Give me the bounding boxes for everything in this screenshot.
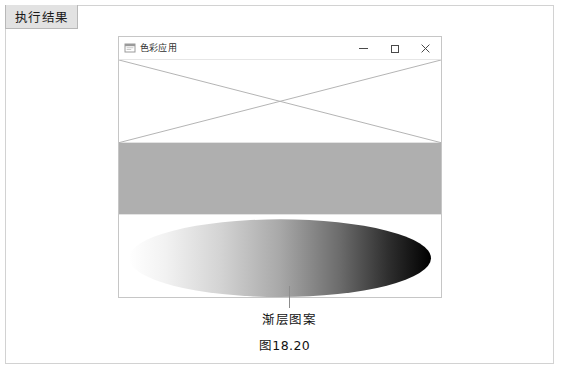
- callout-label: 渐层图案: [262, 309, 316, 328]
- minimize-button[interactable]: [348, 37, 379, 60]
- figure-number: 图18.20: [259, 335, 310, 354]
- figure-number-wrap: 图18.20: [0, 335, 561, 354]
- close-icon: [421, 44, 430, 53]
- gradient-ellipse: [129, 219, 431, 297]
- drawing-canvas: [119, 60, 441, 297]
- window-title: 色彩应用: [140, 44, 177, 53]
- minimize-icon: [359, 48, 368, 49]
- execution-result-tab: 执行结果: [5, 5, 78, 29]
- app-window-icon: [124, 42, 136, 54]
- canvas-graphics: [119, 60, 441, 297]
- window-titlebar[interactable]: 色彩应用: [119, 37, 441, 60]
- maximize-button[interactable]: [379, 37, 410, 60]
- gray-rectangle: [119, 143, 441, 215]
- callout-label-wrap: 渐层图案: [0, 309, 561, 328]
- crossed-lines: [119, 60, 441, 143]
- app-window: 色彩应用: [118, 36, 442, 298]
- window-controls: [348, 37, 441, 60]
- close-button[interactable]: [410, 37, 441, 60]
- execution-result-tab-label: 执行结果: [15, 7, 68, 26]
- maximize-icon: [391, 45, 399, 53]
- callout-leader-line: [289, 286, 290, 308]
